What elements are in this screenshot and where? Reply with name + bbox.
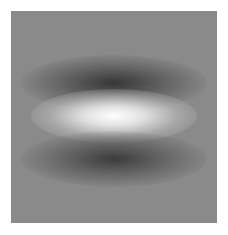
gabor-filter-image	[11, 11, 217, 223]
dark-band-bottom	[21, 131, 207, 187]
